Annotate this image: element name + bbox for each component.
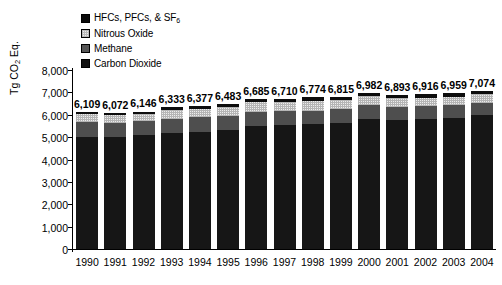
stacked-bar-1993[interactable] [161,107,183,249]
stacked-bar-1997[interactable] [274,99,296,249]
y-tick-label-0: 0 [62,245,68,255]
bar-segment-co2-2000 [358,119,380,249]
bar-segment-n2o-2004 [471,94,493,102]
bar-segment-n2o-2000 [358,96,380,105]
legend-item-methane[interactable]: Methane [81,41,180,55]
bar-group-1990[interactable]: 6,109 [76,70,98,249]
bar-segment-co2-1999 [330,123,352,249]
bar-segment-co2-1996 [245,126,267,249]
bar-segment-co2-1995 [217,130,239,249]
x-tick-label-2004: 2004 [468,256,496,268]
x-tick-label-1998: 1998 [299,256,327,268]
bar-segment-n2o-1990 [76,114,98,122]
bar-value-label-2000: 6,982 [356,80,382,91]
bar-value-label-1992: 6,146 [130,98,156,109]
stacked-bar-2001[interactable] [386,95,408,249]
bar-segment-co2-1997 [274,125,296,249]
bar-group-1991[interactable]: 6,072 [104,70,126,249]
bar-group-1994[interactable]: 6,377 [189,70,211,249]
bar-segment-ch4-2004 [471,103,493,116]
stacked-bar-1995[interactable] [217,104,239,249]
bar-segment-ch4-1997 [274,111,296,125]
legend-swatch-methane [81,44,90,53]
x-tick-label-2002: 2002 [411,256,439,268]
bar-group-2001[interactable]: 6,893 [386,70,408,249]
legend-swatch-nitrous-oxide [81,29,90,38]
stacked-bar-1998[interactable] [302,97,324,249]
stacked-bar-1991[interactable] [104,113,126,249]
bar-group-1993[interactable]: 6,333 [161,70,183,249]
y-tick-label-6000: 6,000 [42,111,68,121]
bar-value-label-2004: 7,074 [469,78,495,89]
bar-group-2000[interactable]: 6,982 [358,70,380,249]
stacked-bar-2000[interactable] [358,93,380,249]
stacked-bar-2004[interactable] [471,91,493,249]
bar-segment-co2-1992 [133,135,155,249]
legend-label-subscript: 6 [176,17,180,24]
bar-group-1999[interactable]: 6,815 [330,70,352,249]
bar-segment-n2o-1994 [189,109,211,118]
y-axis-title-pre: Tg CO [8,64,20,95]
bar-segment-n2o-1999 [330,100,352,109]
legend-item-nitrous-oxide[interactable]: Nitrous Oxide [81,26,180,40]
bar-segment-n2o-2003 [443,97,465,105]
legend-swatch-carbon-dioxide [81,59,90,68]
bar-group-1998[interactable]: 6,774 [302,70,324,249]
y-tick-mark-3000 [68,182,72,183]
bar-group-2002[interactable]: 6,916 [415,70,437,249]
bar-segment-co2-2003 [443,118,465,249]
bar-segment-ch4-2002 [415,106,437,119]
bar-segment-co2-2002 [415,119,437,249]
legend-label-methane: Methane [94,43,132,54]
bar-group-2003[interactable]: 6,959 [443,70,465,249]
y-axis-title-sub: 2 [13,60,22,64]
x-tick-label-1992: 1992 [129,256,157,268]
bar-segment-ch4-1999 [330,109,352,122]
bar-segment-n2o-1992 [133,114,155,121]
y-axis-title-post: Eq. [8,41,20,60]
bar-series-container: 6,1096,0726,1466,3336,3776,4836,6856,710… [73,70,496,249]
bar-segment-ch4-2001 [386,107,408,120]
bar-group-2004[interactable]: 7,074 [471,70,493,249]
bar-value-label-2002: 6,916 [412,81,438,92]
y-tick-mark-8000 [68,70,72,71]
legend-label-carbon-dioxide: Carbon Dioxide [94,58,162,69]
y-tick-mark-0 [68,249,72,250]
x-tick-label-2000: 2000 [355,256,383,268]
x-tick-label-1993: 1993 [158,256,186,268]
y-tick-label-7000: 7,000 [42,88,68,98]
greenhouse-gas-emissions-chart: HFCs, PFCs, & SF6Nitrous OxideMethaneCar… [0,0,502,285]
bar-group-1995[interactable]: 6,483 [217,70,239,249]
chart-legend: HFCs, PFCs, & SF6Nitrous OxideMethaneCar… [81,11,180,70]
legend-item-hfcs-pfcs-sf6[interactable]: HFCs, PFCs, & SF6 [81,11,180,25]
bar-segment-co2-1991 [104,137,126,249]
bar-segment-ch4-1993 [161,119,183,133]
bar-segment-n2o-1998 [302,101,324,111]
bar-segment-n2o-1996 [245,102,267,111]
bar-segment-n2o-2001 [386,98,408,107]
bar-segment-co2-1994 [189,132,211,249]
bar-group-1992[interactable]: 6,146 [133,70,155,249]
bar-segment-n2o-1993 [161,110,183,119]
x-tick-label-2003: 2003 [440,256,468,268]
bar-segment-ch4-1992 [133,121,155,135]
bar-segment-ch4-1998 [302,111,324,125]
y-tick-mark-7000 [68,92,72,93]
legend-swatch-hfcs-pfcs-sf6 [81,14,90,23]
stacked-bar-2003[interactable] [443,93,465,249]
stacked-bar-1990[interactable] [76,112,98,249]
stacked-bar-1992[interactable] [133,111,155,249]
bar-value-label-1993: 6,333 [159,94,185,105]
bar-group-1997[interactable]: 6,710 [274,70,296,249]
bar-segment-co2-1993 [161,133,183,249]
stacked-bar-1994[interactable] [189,106,211,249]
stacked-bar-1996[interactable] [245,99,267,249]
stacked-bar-1999[interactable] [330,97,352,249]
x-tick-label-1994: 1994 [186,256,214,268]
y-tick-label-3000: 3,000 [42,178,68,188]
legend-item-carbon-dioxide[interactable]: Carbon Dioxide [81,56,180,70]
plot-area: 6,1096,0726,1466,3336,3776,4836,6856,710… [72,70,496,250]
stacked-bar-2002[interactable] [415,94,437,249]
bar-group-1996[interactable]: 6,685 [245,70,267,249]
y-tick-label-8000: 8,000 [42,66,68,76]
